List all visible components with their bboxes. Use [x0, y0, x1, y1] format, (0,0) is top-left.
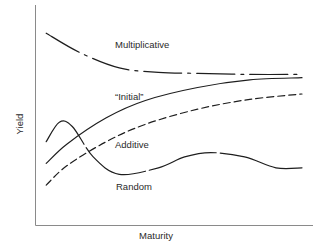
- additive-label: Additive: [115, 139, 149, 150]
- multiplicative-label: Multiplicative: [115, 39, 169, 50]
- additive-curve: [46, 94, 302, 185]
- random-label: Random: [116, 181, 152, 192]
- multiplicative-curve: [46, 33, 302, 74]
- yield-curve-chart: Multiplicative “Initial” Additive Random…: [0, 0, 321, 250]
- initial-curve: [46, 78, 302, 164]
- x-axis-label: Maturity: [139, 230, 173, 241]
- random-curve: [46, 121, 302, 175]
- initial-label: “Initial”: [115, 91, 144, 102]
- y-axis-label: Yield: [14, 114, 25, 135]
